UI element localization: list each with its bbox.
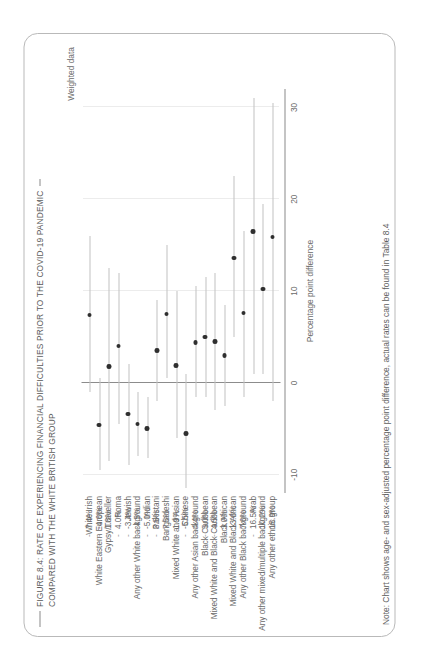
gridline-10 — [83, 290, 278, 291]
category-value: 4.5% — [210, 495, 219, 529]
category-value-dash: - — [248, 534, 257, 537]
data-point — [87, 312, 92, 317]
x-tick-label--10: -10 — [288, 468, 298, 480]
data-point — [260, 286, 265, 291]
data-point — [183, 431, 188, 436]
title-rule-left — [39, 611, 40, 627]
x-tick-label-30: 30 — [288, 102, 298, 111]
data-point — [116, 343, 121, 348]
category-value-dash: - — [181, 534, 190, 537]
figure-title: FIGURE 8.4: RATE OF EXPERIENCING FINANCI… — [33, 67, 46, 627]
data-point — [164, 311, 169, 316]
category-value: 16.5% — [248, 495, 257, 529]
category-value-dash: - — [229, 534, 238, 537]
x-axis-title: Percentage point difference — [304, 239, 314, 341]
figure-title-line1: FIGURE 8.4: RATE OF EXPERIENCING FINANCI… — [34, 190, 44, 607]
figure-note: Note: Chart shows age- and sex-adjusted … — [380, 223, 390, 624]
title-rule-right — [39, 179, 40, 186]
category-value-dash: - — [104, 534, 113, 537]
category-value-dash: - — [162, 534, 171, 537]
category-value: -4.5% — [133, 495, 142, 529]
category-value-dash: - — [200, 534, 209, 537]
category-value-dash: - — [152, 534, 161, 537]
category-value-dash: - — [210, 534, 219, 537]
x-axis-line — [284, 89, 285, 493]
figure-page: FIGURE 8.4: RATE OF EXPERIENCING FINANCI… — [0, 0, 421, 665]
category-value: 7.6% — [239, 495, 248, 529]
category-value: 4.4% — [190, 495, 199, 529]
category-value-dash: - — [258, 534, 267, 537]
data-point — [173, 363, 178, 368]
data-point — [193, 340, 198, 345]
category-value-dash: - — [85, 534, 94, 537]
category-value: 7.4% — [85, 495, 94, 529]
data-point — [144, 426, 149, 431]
data-point — [222, 352, 227, 357]
category-value-dash: - — [113, 534, 122, 537]
category-value: 13.6% — [229, 495, 238, 529]
category-value-dash: - — [190, 534, 199, 537]
category-value: -4.6% — [94, 495, 103, 529]
gridline-30 — [83, 106, 278, 107]
category-value-dash: - — [142, 534, 151, 537]
category-value-dash: - — [171, 534, 180, 537]
category-value: 10.2% — [258, 495, 267, 529]
chart-plot-area: White Irish-7.4%White Eastern European--… — [83, 89, 278, 493]
category-value: 4.0% — [113, 495, 122, 529]
weighted-data-legend: Weighted data — [65, 47, 75, 101]
zero-reference-line — [81, 381, 280, 382]
confidence-interval-bar — [272, 102, 273, 400]
category-value-dash: - — [123, 534, 132, 537]
category-value-dash: - — [268, 534, 277, 537]
confidence-interval-bar — [253, 98, 254, 373]
category-value: 1.8% — [104, 495, 113, 529]
category-value-dash: - — [133, 534, 142, 537]
data-point — [270, 234, 275, 239]
category-value: -5.0% — [142, 495, 151, 529]
gridline-20 — [83, 198, 278, 199]
x-tick-label-0: 0 — [288, 380, 298, 385]
category-value: 7.5% — [162, 495, 171, 529]
category-value: 1.9% — [171, 495, 180, 529]
data-point — [125, 411, 130, 416]
category-value: 5.0% — [200, 495, 209, 529]
rotated-figure-canvas: FIGURE 8.4: RATE OF EXPERIENCING FINANCI… — [13, 23, 408, 643]
data-point — [154, 348, 159, 353]
data-point — [250, 229, 255, 234]
gridline--10 — [83, 473, 278, 474]
category-value: -5.5% — [181, 495, 190, 529]
data-point — [106, 364, 111, 369]
data-point — [202, 334, 207, 339]
category-value: 15.9% — [268, 495, 277, 529]
category-value: -3.4% — [123, 495, 132, 529]
x-tick-label-10: 10 — [288, 286, 298, 295]
category-value: 3.5% — [152, 495, 161, 529]
category-value-dash: - — [239, 534, 248, 537]
figure-title-line2: COMPARED WITH THE WHITE BRITISH GROUP — [46, 413, 56, 607]
x-tick-label-20: 20 — [288, 194, 298, 203]
data-point — [241, 310, 246, 315]
category-value-dash: - — [94, 534, 103, 537]
data-point — [135, 421, 140, 426]
category-value-dash: - — [219, 534, 228, 537]
data-point — [212, 339, 217, 344]
data-point — [96, 422, 101, 427]
category-value: 3.0% — [219, 495, 228, 529]
data-point — [231, 255, 236, 260]
